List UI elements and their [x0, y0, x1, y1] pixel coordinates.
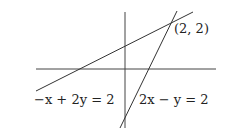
line-neg-x-plus-2y-eq-2: [36, 12, 193, 91]
diagram-canvas: (2, 2) −x + 2y = 2 2x − y = 2: [0, 0, 227, 133]
line2-label: 2x − y = 2: [139, 92, 209, 107]
intersection-label: (2, 2): [174, 21, 209, 36]
line1-label: −x + 2y = 2: [34, 92, 114, 107]
